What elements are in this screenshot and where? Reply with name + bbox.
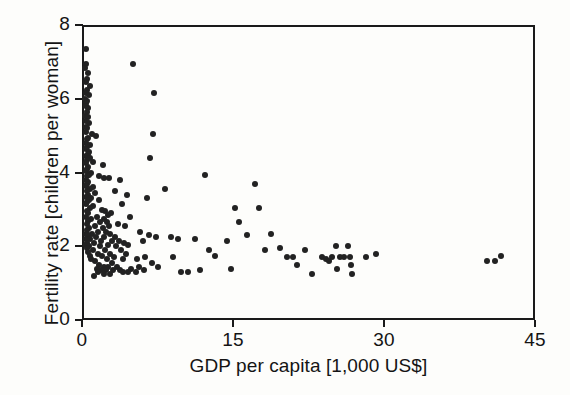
data-point (345, 243, 351, 249)
data-point (256, 205, 262, 211)
scatter-plot-figure: Fertility rate [children per woman] 0246… (0, 0, 570, 395)
data-point (294, 262, 300, 268)
data-point (134, 256, 140, 262)
data-point (112, 188, 118, 194)
data-point (90, 159, 96, 165)
data-point (108, 210, 114, 216)
data-point (347, 254, 353, 260)
data-point (185, 269, 191, 275)
data-point (348, 262, 354, 268)
data-point (141, 267, 147, 273)
data-point (101, 271, 107, 277)
data-point (334, 266, 340, 272)
data-point (151, 90, 157, 96)
x-tick-label: 45 (505, 329, 565, 351)
data-point (224, 238, 230, 244)
x-tick-mark (534, 320, 536, 327)
data-point (162, 186, 168, 192)
y-tick-label: 4 (48, 161, 70, 183)
data-point (212, 253, 218, 259)
data-point (277, 245, 283, 251)
data-point (244, 232, 250, 238)
data-point (252, 181, 258, 187)
data-point (125, 269, 131, 275)
data-point (137, 229, 143, 235)
data-point (147, 155, 153, 161)
data-point (268, 231, 274, 237)
data-point (124, 192, 130, 198)
data-point (142, 254, 148, 260)
y-tick-label: 0 (48, 308, 70, 330)
data-point (106, 175, 112, 181)
data-point (349, 271, 355, 277)
data-point (117, 177, 123, 183)
data-point (262, 247, 268, 253)
data-point (153, 234, 159, 240)
x-tick-mark (383, 320, 385, 327)
data-point (122, 223, 128, 229)
data-point (206, 247, 212, 253)
plot-frame (82, 25, 535, 320)
data-point (115, 221, 121, 227)
data-point (107, 271, 113, 277)
data-point (168, 234, 174, 240)
y-tick-label: 8 (48, 13, 70, 35)
y-tick-label: 2 (48, 234, 70, 256)
data-point (228, 266, 234, 272)
data-point (363, 254, 369, 260)
x-tick-label: 30 (354, 329, 414, 351)
data-point (197, 267, 203, 273)
x-tick-mark (232, 320, 234, 327)
data-point (341, 254, 347, 260)
data-point (170, 254, 176, 260)
data-point (146, 232, 152, 238)
data-point (202, 172, 208, 178)
x-tick-mark (81, 320, 83, 327)
data-point (492, 258, 498, 264)
data-point (100, 162, 106, 168)
data-point (93, 133, 99, 139)
data-point (140, 238, 146, 244)
data-point (302, 247, 308, 253)
data-points-layer (84, 27, 533, 318)
data-point (484, 258, 490, 264)
y-axis-label: Fertility rate [children per woman] (41, 23, 63, 343)
data-point (178, 269, 184, 275)
data-point (329, 254, 335, 260)
data-point (155, 264, 161, 270)
data-point (232, 205, 238, 211)
data-point (119, 201, 125, 207)
data-point (333, 243, 339, 249)
x-tick-label: 15 (203, 329, 263, 351)
data-point (150, 131, 156, 137)
data-point (127, 214, 133, 220)
data-point (498, 253, 504, 259)
x-axis-label: GDP per capita [1,000 US$] (82, 355, 535, 377)
data-point (96, 197, 102, 203)
data-point (290, 254, 296, 260)
data-point (373, 251, 379, 257)
data-point (120, 256, 126, 262)
data-point (83, 46, 89, 52)
data-point (144, 195, 150, 201)
data-point (175, 236, 181, 242)
data-point (309, 271, 315, 277)
data-point (236, 219, 242, 225)
data-point (91, 273, 97, 279)
y-tick-label: 6 (48, 87, 70, 109)
x-tick-label: 0 (52, 329, 112, 351)
data-point (192, 236, 198, 242)
data-point (125, 242, 131, 248)
data-point (133, 269, 139, 275)
data-point (130, 61, 136, 67)
